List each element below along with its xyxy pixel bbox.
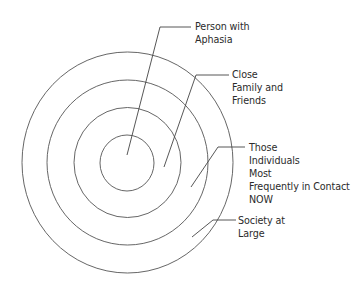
label-line: Frequently in Contact — [249, 180, 350, 193]
label-person-with-aphasia: Person with Aphasia — [195, 20, 250, 46]
circles-of-communication-diagram: Person with Aphasia Close Family and Fri… — [0, 0, 358, 285]
label-line: Aphasia — [195, 33, 250, 46]
label-line: Most — [249, 167, 350, 180]
label-line: Family and — [232, 81, 283, 94]
label-close-family-and-friends: Close Family and Friends — [232, 68, 283, 107]
circle-close-family-and-friends — [74, 108, 181, 218]
label-line: Person with — [195, 20, 250, 33]
label-line: Friends — [232, 94, 283, 107]
label-line: Those — [249, 141, 350, 154]
label-line: Individuals — [249, 154, 350, 167]
leader-line-family — [164, 75, 229, 167]
leader-line-contacts — [191, 147, 245, 187]
circle-individuals-most-frequently-in-contact — [47, 80, 208, 245]
circle-person-with-aphasia — [100, 135, 154, 191]
label-individuals-most-frequently-in-contact: Those Individuals Most Frequently in Con… — [249, 141, 350, 206]
circle-society-at-large — [22, 52, 233, 273]
leader-line-society — [192, 220, 236, 237]
leader-line-person — [127, 27, 191, 155]
label-line: Society at — [238, 214, 285, 227]
label-line: Close — [232, 68, 283, 81]
label-line: Large — [238, 227, 285, 240]
label-line: NOW — [249, 193, 350, 206]
label-society-at-large: Society at Large — [238, 214, 285, 240]
